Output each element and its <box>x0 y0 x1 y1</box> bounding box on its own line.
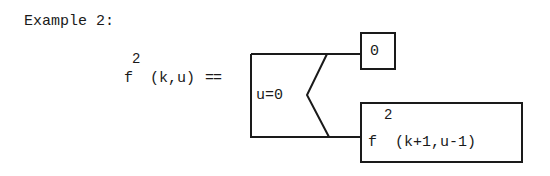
false-branch-function: f <box>368 135 377 150</box>
false-branch-superscript: 2 <box>384 108 392 123</box>
branch-chevron-icon <box>307 54 329 137</box>
condition-label: u=0 <box>256 88 283 103</box>
true-branch-value: 0 <box>370 44 379 59</box>
false-branch-arguments: (k+1,u-1) <box>395 135 476 150</box>
